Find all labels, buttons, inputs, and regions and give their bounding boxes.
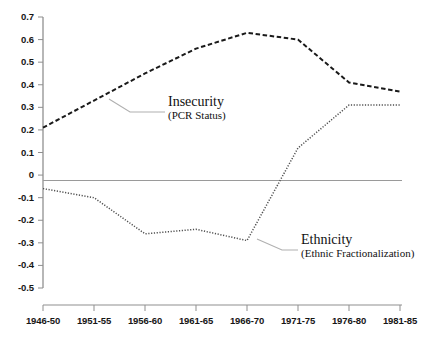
leader-line-insecurity bbox=[109, 99, 165, 112]
y-axis-tick-label: 0.4 bbox=[0, 79, 34, 90]
y-axis-tick-label: 0.2 bbox=[0, 124, 34, 135]
y-axis-tick-label: -0.2 bbox=[0, 214, 34, 225]
y-axis-tick-label: 0.3 bbox=[0, 101, 34, 112]
annotation-insecurity-subtitle: (PCR Status) bbox=[168, 109, 226, 122]
chart-container: 0.70.60.50.40.30.20.10-0.1-0.2-0.3-0.4-0… bbox=[0, 0, 431, 337]
chart-plot-area bbox=[0, 0, 431, 337]
y-axis-tick-label: 0.7 bbox=[0, 11, 34, 22]
annotation-ethnicity-title: Ethnicity bbox=[301, 232, 414, 247]
y-axis-tick-label: -0.3 bbox=[0, 237, 34, 248]
y-axis-tick-label: 0 bbox=[0, 169, 34, 180]
annotation-ethnicity: Ethnicity (Ethnic Fractionalization) bbox=[301, 232, 414, 260]
y-axis-tick-label: 0.6 bbox=[0, 34, 34, 45]
y-axis-tick-label: 0.5 bbox=[0, 56, 34, 67]
y-axis-tick-label: 0.1 bbox=[0, 147, 34, 158]
y-axis-tick-label: -0.1 bbox=[0, 192, 34, 203]
leader-line-ethnicity bbox=[257, 239, 298, 250]
x-axis-tick-label: 1981-85 bbox=[365, 315, 431, 326]
annotation-insecurity-title: Insecurity bbox=[168, 94, 226, 109]
x-axis-ticks bbox=[43, 305, 400, 311]
series-line-ethnicity bbox=[43, 105, 400, 241]
y-axis-tick-label: -0.5 bbox=[0, 282, 34, 293]
annotation-ethnicity-subtitle: (Ethnic Fractionalization) bbox=[301, 247, 414, 260]
y-axis-tick-label: -0.4 bbox=[0, 259, 34, 270]
y-axis-ticks bbox=[38, 17, 43, 288]
annotation-insecurity: Insecurity (PCR Status) bbox=[168, 94, 226, 122]
